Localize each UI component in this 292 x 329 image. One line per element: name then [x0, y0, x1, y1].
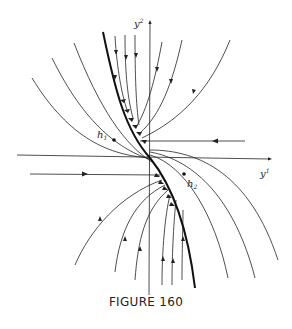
point-h2 [182, 172, 186, 176]
phase-portrait-diagram: y2 y1 h1 h2 [0, 0, 292, 329]
h2-label: h2 [187, 178, 197, 190]
y1-axis-label: y1 [259, 167, 269, 179]
y2-axis-label: y2 [133, 17, 144, 29]
figure-caption: FIGURE 160 [0, 295, 292, 309]
point-h1 [112, 138, 116, 142]
h1-label: h1 [97, 129, 107, 141]
